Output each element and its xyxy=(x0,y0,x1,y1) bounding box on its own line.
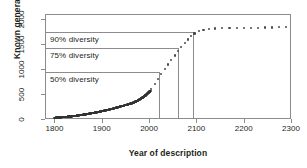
reference-vline xyxy=(159,72,160,119)
annotation-50-diversity: 50% diversity xyxy=(50,75,99,85)
data-point xyxy=(257,27,259,29)
y-tick-mark xyxy=(41,119,45,120)
data-point xyxy=(184,42,186,44)
x-tick-mark xyxy=(102,119,103,123)
data-point xyxy=(271,26,273,28)
data-point xyxy=(187,38,189,40)
x-tick-mark xyxy=(244,119,245,123)
data-point xyxy=(164,68,166,70)
data-point xyxy=(250,27,252,29)
chart-container: Known genera 0500100015002000 1800190020… xyxy=(0,0,307,168)
reference-vline xyxy=(193,32,194,119)
data-point xyxy=(193,32,195,34)
x-tick-mark xyxy=(196,119,197,123)
annotation-75-diversity: 75% diversity xyxy=(50,51,99,61)
data-point xyxy=(264,26,266,28)
x-tick-label: 2300 xyxy=(271,124,307,133)
data-point xyxy=(174,54,176,56)
x-tick-label: 1800 xyxy=(34,124,74,133)
annotation-90-diversity: 90% diversity xyxy=(50,35,99,45)
x-tick-label: 1900 xyxy=(82,124,122,133)
plot-area xyxy=(45,14,291,119)
y-tick-label: 2000 xyxy=(16,2,27,36)
x-axis-title: Year of description xyxy=(45,148,291,158)
x-tick-mark xyxy=(54,119,55,123)
data-point xyxy=(228,27,230,29)
data-point xyxy=(202,29,204,31)
y-tick-mark xyxy=(41,44,45,45)
data-point xyxy=(154,83,156,85)
reference-hline xyxy=(45,48,178,49)
x-tick-label: 2100 xyxy=(176,124,216,133)
reference-vline xyxy=(178,48,179,119)
data-point xyxy=(243,27,245,29)
x-tick-label: 2000 xyxy=(129,124,169,133)
y-tick-mark xyxy=(41,19,45,20)
reference-hline xyxy=(45,72,159,73)
y-tick-mark xyxy=(41,69,45,70)
x-tick-mark xyxy=(149,119,150,123)
data-point xyxy=(167,63,169,65)
reference-hline xyxy=(45,32,193,33)
x-tick-mark xyxy=(291,119,292,123)
data-point xyxy=(236,27,238,29)
data-point xyxy=(149,90,151,92)
x-tick-label: 2200 xyxy=(224,124,264,133)
y-tick-mark xyxy=(41,94,45,95)
